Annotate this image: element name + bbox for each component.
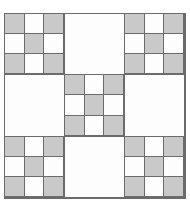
patch-top-left-7 (24, 53, 45, 74)
patch-top-left-8 (43, 53, 64, 74)
patch-top-left-3 (4, 33, 25, 54)
patch-bottom-right-5 (163, 156, 184, 177)
patch-bottom-right-4 (144, 156, 165, 177)
figure-canvas (0, 0, 190, 206)
quilt-block-top-center (64, 13, 125, 75)
patch-top-left-1 (24, 13, 45, 34)
patch-bottom-right-8 (163, 176, 184, 197)
patch-center-8 (103, 115, 124, 136)
patch-bottom-right-6 (124, 176, 145, 197)
patch-bottom-right-7 (144, 176, 165, 197)
patch-center-4 (84, 94, 105, 115)
patch-top-left-2 (43, 13, 64, 34)
patch-top-left-6 (4, 53, 25, 74)
patch-bottom-left-4 (24, 156, 45, 177)
quilt-block-bottom-right (124, 136, 185, 198)
patch-center-5 (103, 94, 124, 115)
patch-top-right-7 (144, 53, 165, 74)
patch-center-2 (103, 74, 124, 95)
quilt-block-bottom-center (64, 136, 125, 198)
patch-bottom-left-5 (43, 156, 64, 177)
patch-top-right-2 (163, 13, 184, 34)
quilt-grid (4, 13, 186, 199)
patch-top-left-4 (24, 33, 45, 54)
patch-bottom-left-2 (43, 136, 64, 157)
patch-top-left-0 (4, 13, 25, 34)
quilt-block-top-right (124, 13, 185, 75)
quilt-block-bottom-left (4, 136, 65, 198)
patch-bottom-left-7 (24, 176, 45, 197)
patch-bottom-right-1 (144, 136, 165, 157)
patch-center-7 (84, 115, 105, 136)
patch-top-right-0 (124, 13, 145, 34)
patch-top-right-5 (163, 33, 184, 54)
patch-bottom-left-1 (24, 136, 45, 157)
patch-top-left-5 (43, 33, 64, 54)
patch-bottom-left-3 (4, 156, 25, 177)
patch-top-right-6 (124, 53, 145, 74)
patch-bottom-left-6 (4, 176, 25, 197)
patch-center-3 (64, 94, 85, 115)
patch-top-right-1 (144, 13, 165, 34)
patch-bottom-right-3 (124, 156, 145, 177)
patch-top-right-8 (163, 53, 184, 74)
patch-bottom-right-0 (124, 136, 145, 157)
patch-center-1 (84, 74, 105, 95)
quilt-block-center (64, 74, 125, 136)
patch-top-right-4 (144, 33, 165, 54)
patch-center-6 (64, 115, 85, 136)
quilt-block-middle-left (4, 74, 65, 136)
quilt-block-top-left (4, 13, 65, 75)
patch-bottom-left-0 (4, 136, 25, 157)
patch-top-right-3 (124, 33, 145, 54)
quilt-block-middle-right (124, 74, 185, 136)
patch-center-0 (64, 74, 85, 95)
patch-bottom-right-2 (163, 136, 184, 157)
patch-bottom-left-8 (43, 176, 64, 197)
